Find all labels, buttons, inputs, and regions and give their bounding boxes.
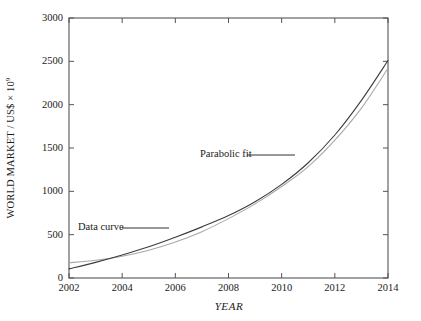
x-tick-label: 2004 <box>112 283 133 294</box>
y-axis-title: WORLD MARKET / US$ × 109 <box>4 78 17 219</box>
x-tick-label: 2012 <box>324 283 345 294</box>
y-axis-title-exponent: 9 <box>4 78 12 82</box>
y-tick-label: 0 <box>0 273 63 284</box>
x-axis-title: YEAR <box>215 300 244 312</box>
data-series-lines <box>69 60 388 268</box>
y-tick-label: 3000 <box>0 13 63 24</box>
annotation-data-curve: Data curve <box>78 222 124 233</box>
y-axis-title-text: WORLD MARKET / US$ × 10 <box>5 81 16 218</box>
annotation-leader-lines <box>122 155 295 228</box>
series-line-parabolic-fit <box>69 68 388 263</box>
annotation-parabolic-fit: Parabolic fit <box>200 149 252 160</box>
x-tick-label: 2014 <box>378 283 399 294</box>
chart-figure: 050010001500200025003000 200220042006200… <box>0 0 421 321</box>
x-tick-label: 2006 <box>165 283 186 294</box>
y-tick-label: 2500 <box>0 56 63 67</box>
x-tick-label: 2010 <box>271 283 292 294</box>
y-tick-label: 500 <box>0 229 63 240</box>
x-tick-label: 2008 <box>218 283 239 294</box>
chart-plot-area <box>0 0 421 321</box>
x-tick-label: 2002 <box>59 283 80 294</box>
series-line-data-curve <box>69 60 388 268</box>
